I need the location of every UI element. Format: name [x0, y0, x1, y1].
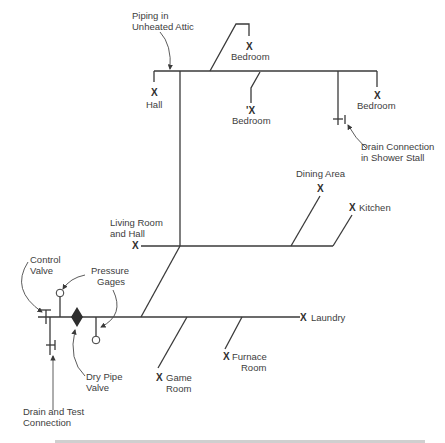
- callout-dry-pipe-valve-line1: Dry Pipe: [86, 371, 122, 382]
- sprinkler-mark: X: [156, 372, 163, 383]
- callout-pressure-gages-line1: Pressure: [91, 265, 129, 276]
- sprinkler-mark: X: [151, 87, 158, 98]
- sprinkler-piping-diagram: Piping in Unheated Attic X Hall X Bedroo…: [0, 0, 445, 443]
- callout-drain-test-line2: Connection: [23, 417, 71, 428]
- callout-control-valve-line1: Control: [30, 254, 61, 265]
- room-furnace-line2: Room: [241, 362, 266, 373]
- living-level-piping: [141, 196, 352, 317]
- room-living-line1: Living Room: [110, 217, 163, 228]
- pressure-gage-icon: [56, 289, 64, 297]
- room-bedroom-middle: Bedroom: [232, 115, 271, 126]
- sprinkler-mark: X: [223, 351, 230, 362]
- callout-dry-pipe-valve-line2: Valve: [86, 382, 109, 393]
- callout-control-valve-line2: Valve: [30, 265, 53, 276]
- callout-leaders: [22, 32, 366, 410]
- room-game-line2: Room: [166, 383, 191, 394]
- room-game-line1: Game: [166, 372, 192, 383]
- pressure-gage-icon: [92, 336, 100, 344]
- sprinkler-mark: X: [349, 202, 356, 213]
- room-laundry: Laundry: [311, 312, 346, 323]
- room-hall: Hall: [146, 99, 162, 110]
- room-kitchen: Kitchen: [359, 202, 391, 213]
- valve-assembly: [41, 289, 100, 355]
- sprinkler-mark: X: [317, 183, 324, 194]
- callout-drain-shower-line1: Drain Connection: [361, 141, 434, 152]
- callout-drain-shower-line2: in Shower Stall: [361, 152, 424, 163]
- room-bedroom-right: Bedroom: [357, 100, 396, 111]
- room-furnace-line1: Furnace: [232, 351, 267, 362]
- callout-drain-test-line1: Drain and Test: [23, 406, 84, 417]
- callout-pressure-gages-line2: Gages: [97, 276, 125, 287]
- room-dining: Dining Area: [296, 168, 346, 179]
- sprinkler-mark: X: [132, 240, 139, 251]
- dry-pipe-valve-icon: [71, 307, 83, 327]
- attic-piping: [154, 24, 377, 125]
- room-bedroom-top: Bedroom: [231, 51, 270, 62]
- sprinkler-mark: X: [300, 312, 307, 323]
- room-living-line2: and Hall: [110, 228, 145, 239]
- callout-attic-line1: Piping in: [132, 10, 168, 21]
- callout-attic-line2: Unheated Attic: [132, 21, 194, 32]
